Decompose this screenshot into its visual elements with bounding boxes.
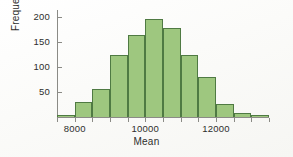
histogram-bar [128, 35, 146, 118]
x-axis-tick [198, 118, 199, 122]
histogram-bar [234, 113, 252, 118]
x-axis-tick-label: 8000 [64, 123, 86, 134]
histogram-screenshot: Frequency 20015010050 80001000012000 Mea… [0, 0, 293, 157]
x-axis-tick-label: 10000 [132, 123, 159, 134]
histogram-bar [216, 104, 234, 118]
x-axis-tick [269, 118, 270, 122]
plot-area: Frequency 20015010050 80001000012000 Mea… [0, 0, 293, 157]
x-axis-title: Mean [0, 136, 293, 147]
x-axis-tick [145, 118, 146, 122]
x-axis-tick [251, 118, 252, 122]
x-axis-tick-label: 12000 [202, 123, 229, 134]
histogram-bar [251, 115, 269, 118]
x-axis-tick [234, 118, 235, 122]
histogram-bar [75, 102, 93, 117]
x-axis-tick [216, 118, 217, 122]
x-axis-tick [163, 118, 164, 122]
histogram-bar [163, 28, 181, 117]
histogram-bar [181, 55, 199, 117]
histogram-bar [198, 77, 216, 118]
histogram-bar [110, 55, 128, 118]
x-axis-tick [110, 118, 111, 122]
x-axis-tick [92, 118, 93, 122]
x-axis-tick [128, 118, 129, 122]
histogram-bar [145, 19, 163, 118]
x-axis-tick [181, 118, 182, 122]
histogram-bar [92, 89, 110, 118]
x-axis-tick [57, 118, 58, 122]
histogram-bar [57, 115, 75, 118]
x-axis-tick [75, 118, 76, 122]
